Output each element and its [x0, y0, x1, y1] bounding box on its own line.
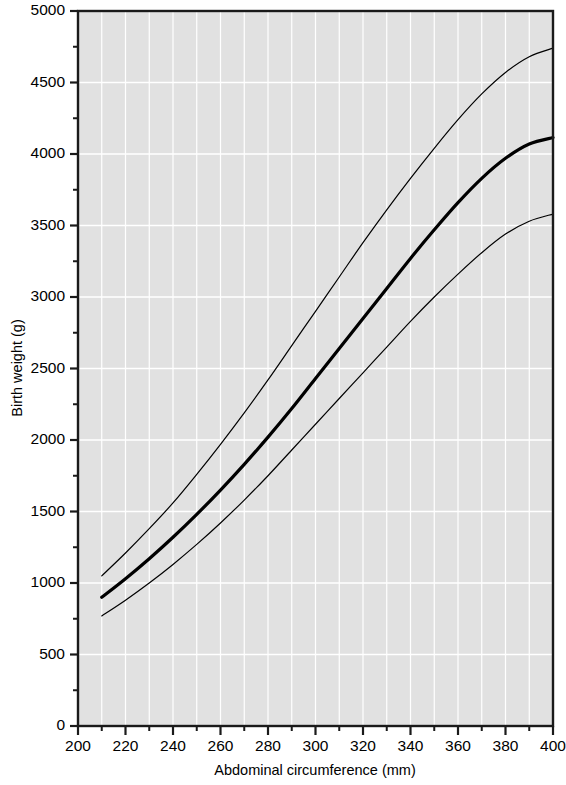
y-tick-label: 1000: [31, 573, 66, 590]
y-tick-label: 5000: [31, 1, 66, 18]
y-tick-label: 500: [39, 645, 65, 662]
y-tick-label: 4500: [31, 73, 66, 90]
x-axis-tick-labels: 200220240260280300320340360380400: [65, 737, 566, 754]
y-tick-label: 2000: [31, 430, 66, 447]
x-tick-label: 320: [350, 737, 376, 754]
x-tick-label: 280: [255, 737, 281, 754]
x-tick-label: 400: [540, 737, 566, 754]
y-tick-label: 1500: [31, 502, 66, 519]
y-axis-title: Birth weight (g): [9, 319, 25, 417]
y-axis-tick-labels: 0500100015002000250030003500400045005000: [31, 1, 66, 733]
x-tick-label: 240: [160, 737, 186, 754]
x-tick-label: 260: [208, 737, 234, 754]
x-tick-label: 340: [398, 737, 424, 754]
y-tick-label: 3500: [31, 216, 66, 233]
x-tick-label: 300: [303, 737, 329, 754]
x-tick-label: 380: [493, 737, 519, 754]
chart-figure: 0500100015002000250030003500400045005000…: [0, 0, 566, 785]
x-axis-title: Abdominal circumference (mm): [214, 762, 415, 778]
y-tick-label: 2500: [31, 359, 66, 376]
x-tick-label: 220: [113, 737, 139, 754]
y-tick-label: 0: [56, 716, 65, 733]
y-tick-label: 4000: [31, 144, 66, 161]
birth-weight-vs-abdominal-circumference-chart: 0500100015002000250030003500400045005000…: [0, 0, 566, 785]
x-tick-label: 360: [445, 737, 471, 754]
y-tick-label: 3000: [31, 287, 66, 304]
x-tick-label: 200: [65, 737, 91, 754]
